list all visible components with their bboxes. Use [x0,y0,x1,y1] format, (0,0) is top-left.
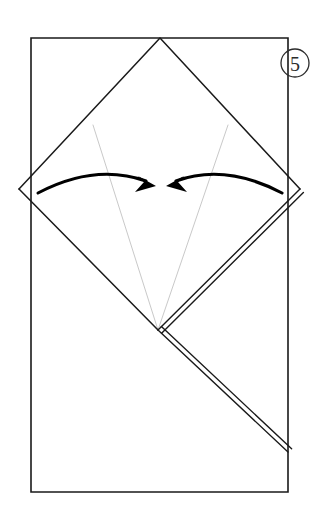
diagram-canvas: 5 [0,0,319,515]
step-badge-label: 5 [290,53,300,75]
origami-diagram: 5 [0,0,319,515]
diagram-background [0,0,319,515]
